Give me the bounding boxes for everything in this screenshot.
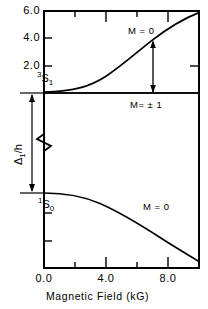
delta-over-h-suffix: /h <box>12 144 24 153</box>
lower-state-letter: S <box>42 198 49 210</box>
xtick-label-4: 4.0 <box>91 272 121 284</box>
x-axis-title: Magnetic Field (kG) <box>46 290 149 302</box>
upper-m0-label: M = 0 <box>128 25 155 36</box>
m-plus-minus-one-label: M= ± 1 <box>130 99 162 110</box>
lower-m0-curve <box>44 193 199 262</box>
left-axis-ticks-upper <box>44 11 52 66</box>
delta-over-h-label: Δ1/h <box>12 144 27 165</box>
upper-state-subscript: 1 <box>49 78 53 87</box>
ytick-label-2: 2.0 <box>2 59 40 71</box>
upper-m0-curve <box>44 13 199 93</box>
lower-state-subscript: 0 <box>50 204 54 213</box>
plot-frame <box>44 11 199 268</box>
xtick-label-0: 0.0 <box>29 272 59 284</box>
lower-m0-label: M = 0 <box>143 201 170 212</box>
bottom-axis-ticks <box>44 257 199 268</box>
ytick-label-4: 4.0 <box>2 31 40 43</box>
delta-symbol: Δ <box>12 158 24 165</box>
left-axis-ticks-lower <box>44 213 52 241</box>
upper-state-letter: S <box>41 72 48 84</box>
top-axis-ticks <box>75 11 199 22</box>
axis-break-zigzag <box>37 124 51 162</box>
delta-energy-arrow <box>20 93 44 193</box>
ytick-label-6: 6.0 <box>2 4 40 16</box>
upper-state-label: 3S1 <box>37 70 53 87</box>
zeeman-shift-arrow <box>150 40 156 93</box>
xtick-label-8: 8.0 <box>153 272 183 284</box>
zeeman-diagram <box>0 0 208 309</box>
lower-state-label: 1S0 <box>38 196 54 213</box>
delta-subscript: 1 <box>18 153 27 157</box>
